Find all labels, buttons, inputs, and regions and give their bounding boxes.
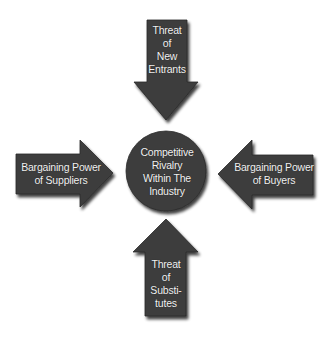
arrow-down-new-entrants (134, 20, 198, 120)
five-forces-diagram (0, 0, 336, 341)
arrow-right-suppliers (16, 140, 113, 207)
center-circle-rivalry (126, 131, 206, 211)
arrow-up-substitutes (133, 219, 198, 316)
arrow-left-buyers (218, 140, 313, 209)
